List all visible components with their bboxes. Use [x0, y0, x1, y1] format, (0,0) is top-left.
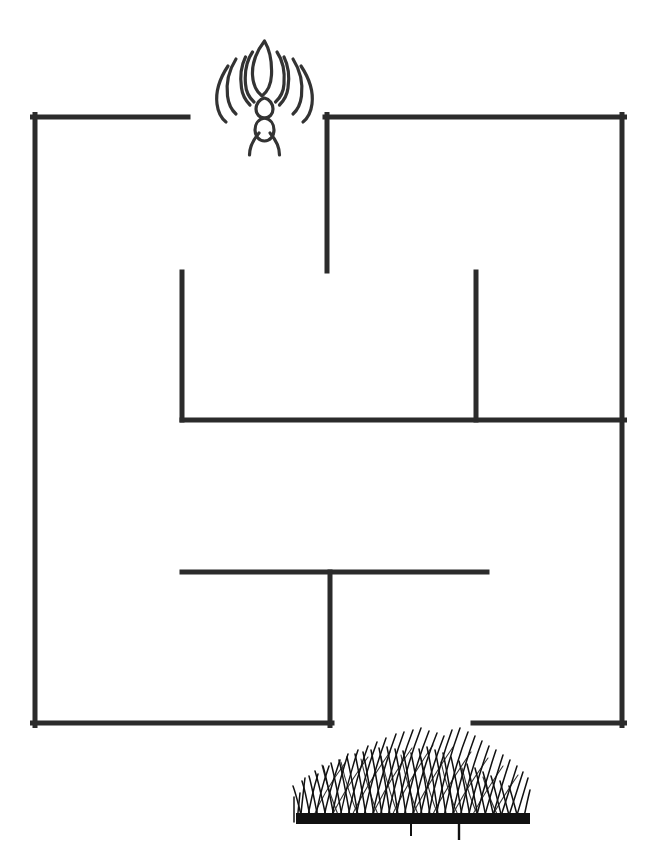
grass-icon: [293, 728, 530, 840]
grass-base: [296, 813, 530, 824]
ant-leg-rear-right: [270, 133, 280, 155]
ant-icon: [217, 41, 313, 155]
ant-antenna-right-inner: [276, 52, 285, 102]
maze-canvas: [0, 0, 657, 851]
puzzle-stage: Ant Maze Puzzle Worksheet: [0, 0, 657, 851]
ant-abdomen: [255, 118, 274, 141]
ant-head: [252, 41, 271, 96]
maze-walls: [33, 115, 625, 726]
ant-thorax: [256, 98, 273, 118]
ant-leg-rear-left: [250, 133, 260, 155]
